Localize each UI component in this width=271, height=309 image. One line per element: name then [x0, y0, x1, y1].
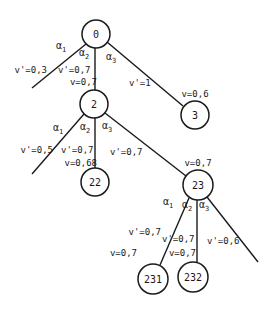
node-231-value: v=0,7	[110, 248, 137, 258]
decision-tree-diagram: 0 2 3 22 23 231 232 v=0,7 v=0,6 v=0,68 v…	[0, 0, 271, 309]
node-label: 231	[144, 274, 162, 285]
node-label: 23	[192, 180, 204, 191]
v-prime-2-3: v'=0,7	[110, 147, 143, 157]
node-3-value: v=0,6	[181, 89, 208, 99]
node-label: 0	[93, 29, 99, 40]
action-label-23-3: α3	[199, 199, 209, 213]
node-23: 23	[183, 170, 213, 200]
node-23-value: v=0,7	[184, 158, 211, 168]
action-label-2-2: α2	[80, 121, 90, 135]
node-232: 232	[178, 262, 208, 292]
v-prime-0-3: v'=1	[129, 78, 151, 88]
v-prime-2-1: v'=0,5	[20, 145, 53, 155]
edge-0-3	[107, 42, 183, 106]
action-label-2-1: α1	[53, 122, 63, 136]
v-prime-23-1: v'=0,7	[128, 227, 161, 237]
node-label: 232	[184, 272, 202, 283]
node-0: 0	[82, 20, 110, 48]
node-2-value: v=0,7	[70, 77, 97, 87]
node-231: 231	[138, 264, 168, 294]
action-label-0-2: α2	[79, 47, 89, 61]
node-2: 2	[80, 90, 108, 118]
edge-23-alpha3	[207, 197, 258, 262]
edge-2-23	[105, 113, 186, 176]
node-232-value: v=0,7	[169, 248, 196, 258]
node-label: 3	[192, 110, 198, 121]
node-3: 3	[181, 101, 209, 129]
v-prime-0-1: v'=0,3	[14, 65, 47, 75]
node-label: 2	[91, 99, 97, 110]
action-label-0-1: α1	[56, 40, 66, 54]
action-label-0-3: α3	[106, 51, 116, 65]
node-22: 22	[81, 168, 109, 196]
v-prime-2-2: v'=0,7	[61, 145, 94, 155]
v-prime-23-2: v'=0,7	[162, 234, 195, 244]
node-22-value: v=0,68	[64, 158, 97, 168]
node-label: 22	[89, 177, 101, 188]
v-prime-0-2: v'=0,7	[58, 65, 91, 75]
action-label-2-3: α3	[102, 120, 112, 134]
v-prime-23-3: v'=0,6	[207, 236, 240, 246]
action-label-23-1: α1	[163, 196, 173, 210]
